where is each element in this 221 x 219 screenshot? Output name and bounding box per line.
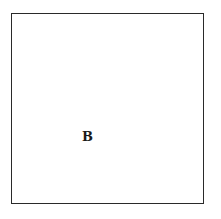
region-label-b: B — [82, 130, 93, 143]
square-region — [11, 13, 204, 204]
